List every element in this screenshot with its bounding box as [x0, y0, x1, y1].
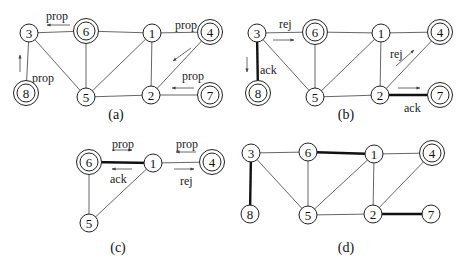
- node-label: 7: [437, 88, 444, 103]
- node-label: 3: [254, 26, 261, 41]
- panel-caption: (a): [108, 107, 124, 123]
- node-2: 2: [364, 205, 382, 223]
- node-label: 8: [23, 86, 30, 101]
- panel-a: propproppropprop36148527(a): [14, 9, 223, 123]
- node-6: 6: [303, 20, 328, 45]
- node-label: 6: [312, 25, 319, 40]
- node-label: 2: [370, 207, 377, 222]
- node-label: 5: [312, 90, 319, 105]
- node-label: 6: [86, 155, 93, 170]
- node-5: 5: [306, 88, 324, 106]
- message-arrow-icon: [173, 48, 191, 61]
- message-label: prop: [182, 69, 204, 83]
- edge-2-4: [380, 32, 440, 95]
- node-5: 5: [77, 88, 95, 106]
- node-7: 7: [198, 83, 223, 108]
- message-label: ack: [404, 101, 421, 115]
- node-label: 8: [255, 86, 262, 101]
- node-label: 3: [248, 146, 255, 161]
- node-label: 7: [207, 88, 214, 103]
- node-8: 8: [246, 81, 271, 106]
- node-label: 8: [247, 207, 254, 222]
- panel-caption: (b): [338, 107, 355, 123]
- node-8: 8: [14, 81, 39, 106]
- node-6: 6: [74, 19, 99, 44]
- panel-caption: (d): [338, 240, 355, 256]
- message-label: rej: [180, 174, 193, 188]
- message-label: prop: [176, 137, 198, 151]
- node-label: 3: [26, 26, 33, 41]
- edge-5-1: [86, 33, 152, 97]
- node-3: 3: [20, 24, 38, 42]
- node-label: 4: [207, 25, 214, 40]
- message-label: ack: [110, 172, 127, 186]
- node-label: 1: [371, 147, 378, 162]
- message-label: prop: [32, 71, 54, 85]
- edge-5-1: [308, 154, 374, 215]
- node-label: 4: [209, 155, 216, 170]
- panel-caption: (c): [110, 240, 126, 256]
- message-label: rej: [279, 17, 292, 31]
- edge-5-2: [315, 95, 380, 97]
- node-label: 2: [377, 88, 384, 103]
- node-3: 3: [248, 24, 266, 42]
- edge-6-1: [308, 152, 374, 154]
- node-5: 5: [299, 206, 317, 224]
- node-6: 6: [299, 143, 317, 161]
- node-2: 2: [142, 86, 160, 104]
- graph-protocol-diagram: propproppropprop36148527(a)rejackrejack3…: [0, 0, 462, 268]
- node-4: 4: [200, 150, 225, 175]
- node-4: 4: [428, 20, 453, 45]
- node-3: 3: [242, 144, 260, 162]
- node-5: 5: [80, 214, 98, 232]
- node-6: 6: [77, 150, 102, 175]
- node-8: 8: [241, 205, 259, 223]
- message-label: ack: [260, 63, 277, 77]
- node-2: 2: [371, 86, 389, 104]
- node-1: 1: [365, 145, 383, 163]
- node-label: 5: [83, 90, 90, 105]
- node-label: 4: [437, 25, 444, 40]
- node-4: 4: [420, 141, 445, 166]
- node-label: 6: [305, 145, 312, 160]
- node-label: 1: [378, 26, 385, 41]
- edge-5-1: [315, 33, 381, 97]
- node-label: 1: [149, 26, 156, 41]
- node-4: 4: [198, 20, 223, 45]
- edge-5-2: [86, 95, 151, 97]
- node-1: 1: [372, 24, 390, 42]
- node-1: 1: [144, 154, 162, 172]
- node-7: 7: [422, 205, 440, 223]
- node-1: 1: [143, 24, 161, 42]
- panel-b: rejackrejack36148527(b): [246, 17, 453, 123]
- node-label: 4: [429, 146, 436, 161]
- node-label: 7: [428, 207, 435, 222]
- message-label: prop: [112, 137, 134, 151]
- node-7: 7: [428, 83, 453, 108]
- panel-c: propackproprej6145(c): [77, 137, 225, 256]
- node-label: 6: [83, 24, 90, 39]
- message-label: prop: [175, 18, 197, 32]
- node-label: 2: [148, 88, 155, 103]
- message-label: prop: [46, 9, 68, 23]
- node-label: 5: [86, 216, 93, 231]
- node-label: 1: [150, 156, 157, 171]
- edge-5-2: [308, 214, 373, 215]
- node-label: 5: [305, 208, 312, 223]
- message-label: rej: [390, 47, 403, 61]
- edge-3-5: [251, 153, 308, 215]
- panel-d: 36148527(d): [241, 141, 445, 257]
